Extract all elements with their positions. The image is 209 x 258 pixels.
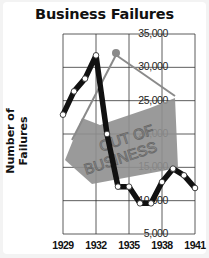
data-point-marker [82,76,88,82]
data-point-marker [137,201,143,207]
data-point-marker [71,89,77,95]
data-point-marker [159,179,165,185]
data-point-marker [170,166,176,172]
data-point-marker [115,184,121,190]
out-of-business-sign-illustration: OUT OF BUSINESS [65,49,178,184]
data-point-marker [148,201,154,207]
data-point-marker [181,173,187,179]
data-point-marker [93,53,99,59]
chart-plot: OUT OF BUSINESS [0,0,209,258]
data-point-marker [104,131,110,137]
data-point-marker [60,112,66,118]
sign-nail-icon [112,49,120,57]
data-point-marker [126,184,132,190]
data-point-marker [192,185,198,191]
